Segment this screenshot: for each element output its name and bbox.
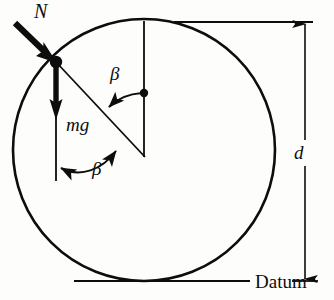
- normal-force-label: N: [33, 0, 49, 22]
- angle-arc-upper: [109, 93, 142, 107]
- weight-label: mg: [66, 114, 89, 135]
- angle-label-lower: β: [91, 158, 102, 179]
- physics-diagram-figure: N mg β β d Datum: [0, 0, 334, 300]
- diameter-label: d: [294, 142, 304, 163]
- chord-line: [56, 62, 145, 157]
- normal-force-arrow-shaft: [15, 23, 44, 51]
- free-body-diagram-canvas: N mg β β d Datum: [0, 0, 334, 300]
- datum-label: Datum: [255, 271, 307, 292]
- particle-dot: [50, 56, 62, 68]
- angle-arc-lower: [61, 151, 116, 172]
- angle-label-upper: β: [109, 63, 120, 84]
